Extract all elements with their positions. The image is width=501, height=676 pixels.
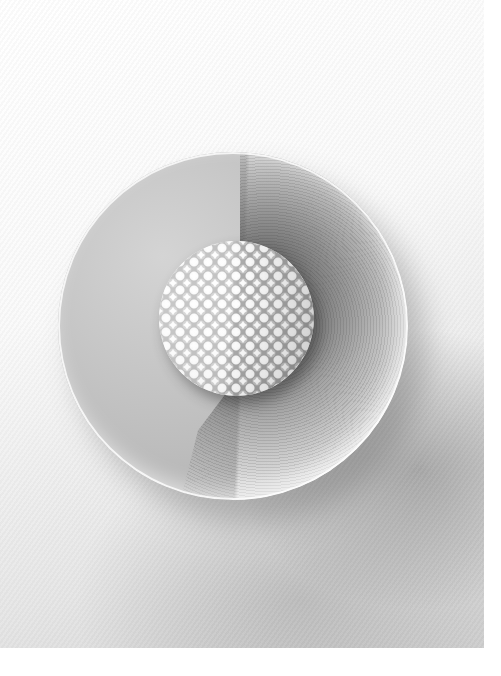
dessert-sphere	[159, 241, 314, 396]
photograph	[0, 0, 484, 648]
sphere-shading	[159, 241, 314, 396]
